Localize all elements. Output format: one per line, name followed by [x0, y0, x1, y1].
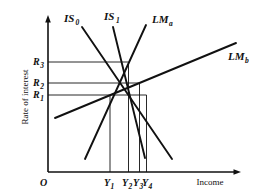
x-tick-labels: Y1 Y2 Y3 Y4 — [104, 177, 153, 191]
x-tick-y4: Y4 — [142, 177, 153, 191]
curve-label-is0: IS0 — [63, 12, 79, 27]
y-tick-r3: R3 — [32, 56, 44, 70]
curve-is0 — [82, 27, 172, 159]
y-tick-labels: R3 R2 R1 — [32, 56, 44, 103]
guide-lines — [48, 62, 147, 172]
curves — [55, 25, 236, 159]
islm-diagram: IS0 IS1 LMa LMb R3 R2 R1 Y1 Y2 Y3 Y4 O R… — [0, 0, 263, 193]
diagram-canvas: IS0 IS1 LMa LMb R3 R2 R1 Y1 Y2 Y3 Y4 O R… — [0, 0, 263, 193]
curve-label-lmb: LMb — [227, 50, 249, 65]
curve-label-lma: LMa — [151, 13, 173, 28]
y-axis-title: Rate of interest — [20, 69, 30, 124]
x-tick-y1: Y1 — [104, 177, 114, 191]
y-tick-r1: R1 — [32, 89, 44, 103]
curve-labels: IS0 IS1 LMa LMb — [63, 10, 249, 65]
origin-label: O — [40, 177, 47, 188]
x-tick-y2: Y2 — [122, 177, 133, 191]
curve-label-is1: IS1 — [103, 10, 120, 25]
x-axis-title: Income — [197, 177, 224, 187]
curve-lmb — [55, 43, 236, 118]
y-axis-arrow — [45, 15, 51, 23]
x-axis-arrow — [234, 169, 242, 175]
